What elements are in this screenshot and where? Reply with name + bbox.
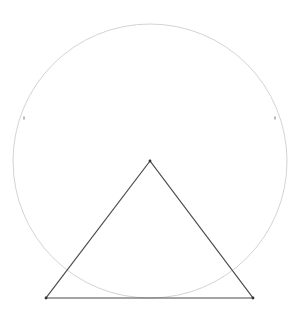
vertex-point	[149, 160, 152, 163]
vertex-point	[45, 297, 48, 300]
triangle-vertices	[45, 160, 255, 300]
vertex-point	[252, 297, 255, 300]
diagram-canvas	[0, 0, 298, 318]
circle-tick-marks	[24, 117, 275, 120]
